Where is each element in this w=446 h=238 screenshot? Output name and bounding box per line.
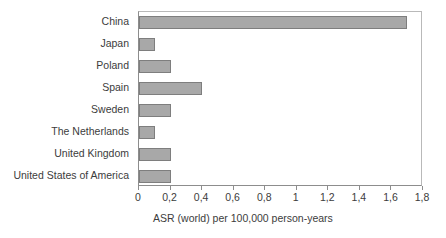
bar	[139, 126, 155, 139]
bar	[139, 82, 202, 95]
plot-area	[138, 11, 422, 186]
x-tick-mark	[422, 186, 423, 190]
bar	[139, 104, 171, 117]
bar	[139, 170, 171, 183]
x-tick-mark	[170, 186, 171, 190]
category-label: Sweden	[91, 99, 129, 120]
x-tick-label: 1,4	[344, 191, 374, 204]
category-label: United States of America	[13, 165, 129, 186]
x-tick-label: 0	[123, 191, 153, 204]
bars-layer	[139, 12, 421, 185]
x-tick-label: 0,2	[155, 191, 185, 204]
x-tick-label: 0,6	[218, 191, 248, 204]
category-label: United Kingdom	[54, 143, 129, 164]
x-tick-mark	[264, 186, 265, 190]
bar	[139, 148, 171, 161]
category-label: China	[102, 11, 129, 32]
x-tick-label: 1,2	[312, 191, 342, 204]
bar	[139, 60, 171, 73]
x-tick-mark	[327, 186, 328, 190]
category-label: Japan	[100, 33, 129, 54]
x-axis: 00,20,40,60,811,21,41,61,8	[138, 186, 423, 208]
x-tick-mark	[359, 186, 360, 190]
x-axis-title: ASR (world) per 100,000 person-years	[0, 212, 446, 224]
x-tick-label: 1,6	[375, 191, 405, 204]
bar	[139, 38, 155, 51]
x-tick-mark	[390, 186, 391, 190]
x-tick-mark	[201, 186, 202, 190]
x-tick-mark	[138, 186, 139, 190]
category-label: Poland	[96, 55, 129, 76]
x-tick-label: 1	[281, 191, 311, 204]
bar-chart-figure: ChinaJapanPolandSpainSwedenThe Netherlan…	[0, 0, 446, 238]
x-tick-mark	[233, 186, 234, 190]
x-tick-label: 1,8	[407, 191, 437, 204]
x-tick-label: 0,8	[249, 191, 279, 204]
category-label: The Netherlands	[51, 121, 129, 142]
bar	[139, 16, 407, 29]
x-tick-label: 0,4	[186, 191, 216, 204]
category-label: Spain	[102, 77, 129, 98]
category-axis: ChinaJapanPolandSpainSwedenThe Netherlan…	[0, 11, 134, 186]
x-tick-mark	[296, 186, 297, 190]
